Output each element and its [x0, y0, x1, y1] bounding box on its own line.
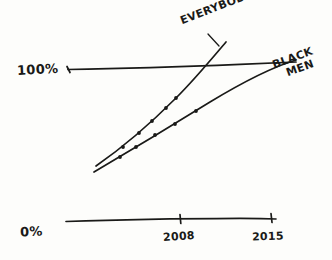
x-axis-line: [66, 218, 276, 221]
y-axis-label-0-percent: 0%: [20, 224, 43, 240]
x-axis-tick-2008: [180, 215, 181, 224]
chart-sketch-canvas: [0, 0, 332, 260]
everybody-label-leader: [208, 34, 219, 46]
x-axis-tick-label-2015: 2015: [252, 229, 284, 243]
y-axis-label-100-percent: 100%: [17, 61, 59, 78]
reference-line-100-percent: [68, 62, 296, 70]
x-axis-tick-label-2008: 2008: [163, 229, 196, 244]
x-axis-tick-2015: [271, 214, 272, 223]
hand-drawn-chart: 100% 0% 2008 2015 EVERYBODY BLACK MEN: [0, 0, 332, 260]
